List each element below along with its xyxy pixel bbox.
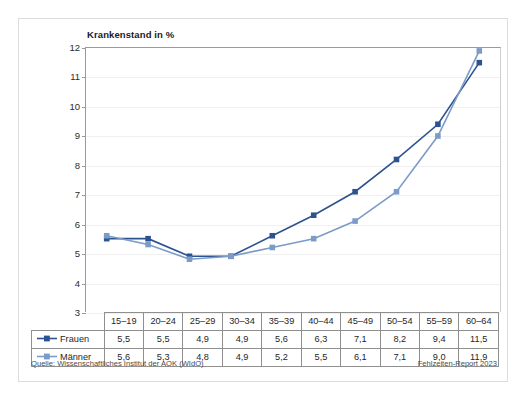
data-point-marker <box>145 242 151 248</box>
data-point-marker <box>145 236 151 242</box>
data-point-marker <box>311 236 317 242</box>
data-point-marker <box>394 157 400 163</box>
table-head: 15–1920–2425–2930–3435–3940–4445–4950–54… <box>32 313 499 331</box>
series-line-männer <box>107 51 480 259</box>
table-col-header: 25–29 <box>183 313 222 331</box>
table-cell-value: 5,5 <box>143 331 182 349</box>
y-tick-label: 12 <box>69 43 80 53</box>
data-point-marker <box>352 218 358 224</box>
y-tick-label: 7 <box>75 190 80 200</box>
table-col-header: 20–24 <box>143 313 182 331</box>
source-note: Quelle: Wissenschaftliches Institut der … <box>31 359 204 368</box>
y-tick-label: 10 <box>69 102 80 112</box>
table-cell-value: 4,9 <box>222 331 261 349</box>
table-cell-value: 5,6 <box>262 331 301 349</box>
table-col-header: 55–59 <box>420 313 459 331</box>
legend-entry-frauen[interactable]: Frauen <box>32 331 105 349</box>
y-tick-label: 5 <box>75 249 80 259</box>
plot-wrapper: Krankenstand in % 3456789101112 <box>19 19 509 315</box>
table-cell-value: 9,4 <box>420 331 459 349</box>
table-col-header: 50–54 <box>380 313 419 331</box>
data-point-marker <box>352 189 358 195</box>
data-point-marker <box>394 189 400 195</box>
series-layer <box>86 48 500 312</box>
table-col-header: 35–39 <box>262 313 301 331</box>
chart-title: Krankenstand in % <box>87 29 174 40</box>
table-cell-value: 11,5 <box>459 331 499 349</box>
data-point-marker <box>311 212 317 218</box>
report-note: Fehlzeiten-Report 2023 <box>418 359 497 368</box>
figure-panel: Krankenstand in % 3456789101112 15–1920–… <box>18 18 508 382</box>
series-line-frauen <box>107 63 480 257</box>
data-point-marker <box>270 245 276 251</box>
table-col-header: 15–19 <box>104 313 143 331</box>
data-point-marker <box>435 133 441 139</box>
table-col-header: 30–34 <box>222 313 261 331</box>
data-point-marker <box>435 121 441 127</box>
table-header-row: 15–1920–2425–2930–3435–3940–4445–4950–54… <box>32 313 499 331</box>
table-cell-value: 6,3 <box>301 331 340 349</box>
data-point-marker <box>477 48 483 54</box>
data-point-marker <box>477 60 483 66</box>
data-point-marker <box>187 256 193 262</box>
y-tick-label: 11 <box>70 73 80 83</box>
table-col-header: 60–64 <box>459 313 499 331</box>
table-col-header: 45–49 <box>341 313 380 331</box>
y-tick-label: 9 <box>75 132 80 142</box>
data-point-marker <box>104 233 110 239</box>
table-cell-value: 4,9 <box>183 331 222 349</box>
plot-area: 3456789101112 <box>85 47 501 312</box>
table-cell-value: 8,2 <box>380 331 419 349</box>
table-cell-value: 5,5 <box>104 331 143 349</box>
legend-label: Frauen <box>60 334 89 344</box>
y-tick-label: 6 <box>75 220 80 230</box>
table-col-header: 40–44 <box>301 313 340 331</box>
y-tick-label: 8 <box>75 161 80 171</box>
table-cell-value: 7,1 <box>341 331 380 349</box>
data-point-marker <box>270 233 276 239</box>
table-corner-cell <box>32 313 105 331</box>
footer: Quelle: Wissenschaftliches Institut der … <box>31 359 497 368</box>
data-point-marker <box>228 253 234 259</box>
legend-marker-icon <box>37 332 57 341</box>
y-tick-label: 4 <box>75 279 80 289</box>
table-row: Frauen5,55,54,94,95,66,37,18,29,411,5 <box>32 331 499 349</box>
legend-marker-icon <box>37 350 57 359</box>
